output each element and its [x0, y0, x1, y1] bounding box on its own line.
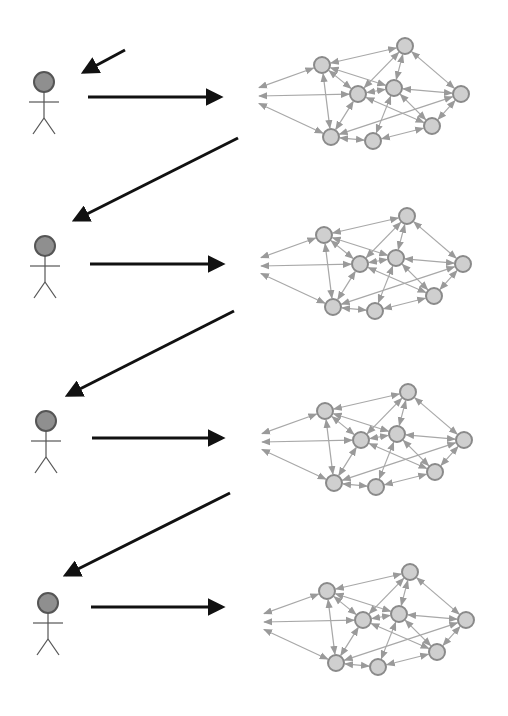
network-node: [328, 655, 344, 671]
network-node: [399, 208, 415, 224]
network-node: [386, 80, 402, 96]
network-edge: [341, 628, 358, 656]
stage-1: [29, 38, 469, 149]
network-node: [323, 129, 339, 145]
network-edge: [259, 103, 323, 133]
network-node: [352, 256, 368, 272]
network-node: [353, 432, 369, 448]
network-node: [400, 384, 416, 400]
network-graph: [261, 208, 471, 319]
network-node: [456, 432, 472, 448]
network-node: [397, 38, 413, 54]
network-edge: [336, 102, 353, 130]
network-node: [326, 475, 342, 491]
network-graph: [259, 38, 469, 149]
network-edge: [336, 594, 391, 612]
network-edge: [443, 627, 460, 646]
stage-2: [30, 138, 471, 319]
network-edge: [382, 128, 424, 139]
network-edge: [412, 52, 454, 88]
network-edge: [415, 398, 457, 434]
network-node: [316, 227, 332, 243]
network-edge: [323, 74, 330, 128]
network-node: [317, 403, 333, 419]
actor-icon: [30, 236, 60, 298]
network-edge: [438, 101, 455, 120]
feedback-arrow: [66, 493, 230, 575]
network-edge: [262, 440, 352, 442]
network-edge: [261, 273, 325, 303]
network-node: [455, 256, 471, 272]
network-node: [391, 606, 407, 622]
stage-3: [31, 311, 472, 495]
network-edge: [340, 138, 364, 140]
network-node: [388, 250, 404, 266]
stage-4: [33, 493, 474, 675]
network-node: [367, 303, 383, 319]
network-node: [429, 644, 445, 660]
network-edge: [338, 272, 355, 300]
network-edge: [381, 622, 395, 658]
network-edge: [399, 401, 405, 426]
network-edge: [261, 264, 351, 266]
network-node: [350, 86, 366, 102]
network-edge: [371, 624, 428, 649]
network-node: [458, 612, 474, 628]
network-graph: [262, 384, 472, 495]
network-edge: [325, 244, 332, 298]
network-node: [424, 118, 440, 134]
actor-icon: [29, 72, 59, 134]
network-edge: [259, 94, 349, 96]
network-edge: [370, 435, 388, 438]
network-edge: [441, 447, 458, 466]
network-edge: [403, 89, 452, 93]
network-edge: [398, 225, 404, 250]
feedback-arrow: [75, 138, 238, 220]
network-node: [355, 612, 371, 628]
network-node: [370, 659, 386, 675]
network-edge: [262, 449, 326, 479]
network-edge: [343, 484, 367, 486]
network-node: [402, 564, 418, 580]
network-node: [426, 288, 442, 304]
stages: [29, 38, 474, 675]
network-edge: [334, 394, 399, 409]
network-edge: [367, 89, 385, 92]
network-edge: [366, 98, 423, 123]
network-edge: [262, 414, 317, 434]
network-edge: [384, 298, 426, 309]
network-edge: [369, 444, 426, 469]
network-node: [325, 299, 341, 315]
network-edge: [387, 654, 429, 665]
network-edge: [396, 55, 402, 80]
actor-icon: [31, 411, 61, 473]
network-edge: [326, 420, 333, 474]
network-edge: [333, 238, 388, 256]
network-edge: [368, 268, 425, 293]
network-edge: [333, 218, 398, 233]
network-edge: [264, 620, 354, 622]
network-edge: [331, 48, 396, 63]
network-edge: [264, 594, 319, 614]
network-edge: [342, 308, 366, 310]
network-node: [453, 86, 469, 102]
network-edge: [328, 600, 335, 654]
network-node: [365, 133, 381, 149]
network-edge: [336, 574, 401, 589]
feedback-arrow: [84, 50, 125, 72]
network-edge: [378, 266, 392, 302]
network-node: [427, 464, 443, 480]
network-edge: [339, 448, 356, 476]
network-edge: [376, 96, 390, 132]
network-node: [389, 426, 405, 442]
network-edge: [261, 238, 316, 258]
network-edge: [405, 259, 454, 263]
diagram-canvas: [0, 0, 508, 716]
network-edge: [372, 615, 390, 618]
network-node: [319, 583, 335, 599]
network-edge: [264, 629, 328, 659]
network-edge: [385, 474, 427, 485]
network-node: [368, 479, 384, 495]
network-edge: [345, 664, 369, 666]
network-node: [314, 57, 330, 73]
